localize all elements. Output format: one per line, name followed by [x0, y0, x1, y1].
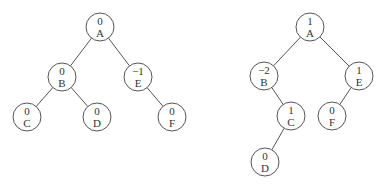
node-a: 0A: [86, 13, 114, 41]
node-e: −1E: [124, 63, 152, 91]
edge-a-b: [70, 38, 91, 66]
node-label: A: [306, 27, 314, 39]
node-d: 0D: [251, 148, 279, 176]
node-c: 1C: [277, 102, 305, 130]
node-label: E: [135, 77, 142, 89]
balance-factor: 0: [94, 105, 100, 117]
balance-factor: 0: [97, 15, 103, 27]
node-e: 1E: [345, 62, 373, 90]
edge-a-b: [274, 37, 301, 66]
balance-factor: 0: [262, 150, 268, 162]
node-label: B: [58, 77, 65, 89]
node-b: 0B: [48, 63, 76, 91]
edge-e-f: [340, 88, 351, 105]
balance-factor: 1: [288, 104, 294, 116]
node-label: C: [23, 117, 30, 129]
avl-tree-diagram: 0A0B−1E0C0D0F1A−2B1E1C0F0D: [0, 0, 383, 190]
node-f: 0F: [318, 102, 346, 130]
node-label: D: [261, 162, 269, 174]
node-label: A: [96, 27, 104, 39]
left-tree: 0A0B−1E0C0D0F: [13, 13, 186, 131]
balance-factor: −1: [132, 65, 144, 77]
node-label: B: [260, 76, 267, 88]
balance-factor: 0: [59, 65, 65, 77]
node-b: −2B: [250, 62, 278, 90]
edge-b-c: [36, 88, 53, 107]
right-tree: 1A−2B1E1C0F0D: [250, 13, 373, 176]
node-f: 0F: [158, 103, 186, 131]
node-label: D: [93, 117, 101, 129]
node-label: F: [169, 117, 175, 129]
balance-factor: 0: [24, 105, 30, 117]
balance-factor: −2: [258, 64, 270, 76]
edge-e-f: [147, 88, 163, 107]
node-c: 0C: [13, 103, 41, 131]
balance-factor: 1: [356, 64, 362, 76]
edge-a-e: [108, 38, 129, 66]
node-d: 0D: [83, 103, 111, 131]
node-a: 1A: [296, 13, 324, 41]
edge-a-e: [320, 37, 349, 66]
edge-b-c: [272, 88, 283, 105]
balance-factor: 0: [329, 104, 335, 116]
balance-factor: 1: [307, 15, 313, 27]
node-label: F: [329, 116, 335, 128]
edge-c-d: [272, 128, 284, 150]
edge-b-d: [71, 88, 88, 107]
node-label: C: [287, 116, 294, 128]
balance-factor: 0: [169, 105, 175, 117]
node-label: E: [356, 76, 363, 88]
